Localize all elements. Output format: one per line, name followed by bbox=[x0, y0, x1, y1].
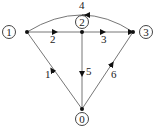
graph-diagram: 1 2 3 0 4 2 3 5 1 6 bbox=[0, 0, 156, 128]
edge-4-label: 4 bbox=[79, 0, 85, 11]
node-2-dot bbox=[80, 30, 84, 34]
node-0-dot bbox=[80, 107, 84, 111]
edge-1-label: 1 bbox=[45, 68, 51, 80]
node-0-label: 0 bbox=[79, 113, 85, 125]
node-2-label: 2 bbox=[79, 16, 85, 28]
edge-3-label: 3 bbox=[101, 33, 107, 45]
edge-6-label: 6 bbox=[111, 68, 117, 80]
edge-2-label: 2 bbox=[50, 33, 56, 45]
edge-5-label: 5 bbox=[86, 65, 92, 77]
node-3-dot bbox=[131, 30, 135, 34]
node-1-dot bbox=[25, 30, 29, 34]
node-3-label: 3 bbox=[143, 26, 149, 38]
node-1-label: 1 bbox=[6, 26, 12, 38]
